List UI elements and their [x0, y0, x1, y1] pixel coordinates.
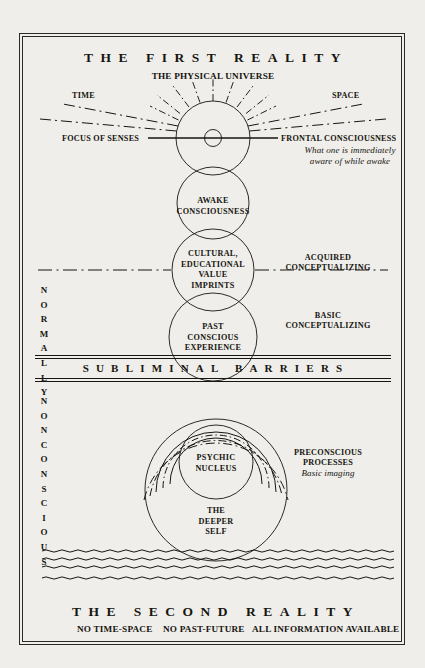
- label-focus-of-senses: FOCUS OF SENSES: [62, 134, 139, 143]
- bottom-note-no-time-space: NO TIME-SPACE: [77, 624, 153, 634]
- right-label-preconscious-line2: PROCESSES: [303, 458, 353, 467]
- axis-label-space: SPACE: [332, 91, 359, 100]
- right-label-basic-line1: BASIC: [315, 311, 341, 320]
- side-label-normally: N O R M A L L Y: [36, 283, 52, 400]
- side-label-nonconscious-text: N O N C O N S C I O U S: [36, 394, 52, 569]
- circle-label-awake-consciousness: AWAKE CONSCIOUSNESS: [176, 196, 249, 217]
- circle-label-line: AWAKE CONSCIOUSNESS: [176, 196, 249, 217]
- page-title-first-reality: THE FIRST REALITY: [84, 50, 348, 66]
- side-label-normally-text: N O R M A L L Y: [36, 283, 52, 400]
- circle-label-line: THE DEEPER SELF: [198, 506, 233, 538]
- side-label-nonconscious: N O N C O N S C I O U S: [36, 394, 52, 569]
- bottom-note-no-past-future: NO PAST-FUTURE: [163, 624, 245, 634]
- note-frontal-line1: What one is immediately: [304, 145, 395, 155]
- subtitle-physical-universe: THE PHYSICAL UNIVERSE: [152, 71, 275, 81]
- circle-label-psychic-nucleus: PSYCHIC NUCLEUS: [195, 453, 236, 474]
- second-reality-wavy-lines: [42, 550, 394, 579]
- right-label-preconscious-italic: Basic imaging: [301, 468, 354, 478]
- label-frontal-consciousness: FRONTAL CONSCIOUSNESS: [281, 134, 396, 143]
- right-label-acquired-line2: CONCEPTUALIZING: [285, 263, 370, 272]
- deeper-self-circle: [145, 419, 287, 561]
- diagram-page: THE FIRST REALITY THE PHYSICAL UNIVERSE …: [0, 0, 425, 668]
- circle-label-past-conscious-experience: PAST CONSCIOUS EXPERIENCE: [185, 322, 242, 354]
- page-title-second-reality: THE SECOND REALITY: [72, 604, 360, 620]
- right-label-preconscious-line1: PRECONSCIOUS: [294, 448, 362, 457]
- circle-label-line: PAST CONSCIOUS EXPERIENCE: [185, 322, 242, 354]
- right-label-acquired-line1: ACQUIRED: [305, 253, 352, 262]
- right-label-basic-line2: CONCEPTUALIZING: [285, 321, 370, 330]
- circle-label-line: PSYCHIC NUCLEUS: [195, 453, 236, 474]
- radiating-rays-group: [150, 78, 276, 120]
- bottom-note-all-information: ALL INFORMATION AVAILABLE: [252, 624, 399, 634]
- axis-label-time: TIME: [72, 91, 95, 100]
- circle-label-deeper-self: THE DEEPER SELF: [198, 506, 233, 538]
- circle-label-cultural-imprints: CULTURAL, EDUCATIONAL VALUE IMPRINTS: [181, 249, 245, 291]
- subliminal-barriers-label: SUBLIMINAL BARRIERS: [83, 362, 350, 374]
- note-frontal-line2: aware of while awake: [310, 156, 390, 166]
- circle-label-line: CULTURAL, EDUCATIONAL VALUE IMPRINTS: [181, 249, 245, 291]
- time-space-rays: [40, 104, 386, 131]
